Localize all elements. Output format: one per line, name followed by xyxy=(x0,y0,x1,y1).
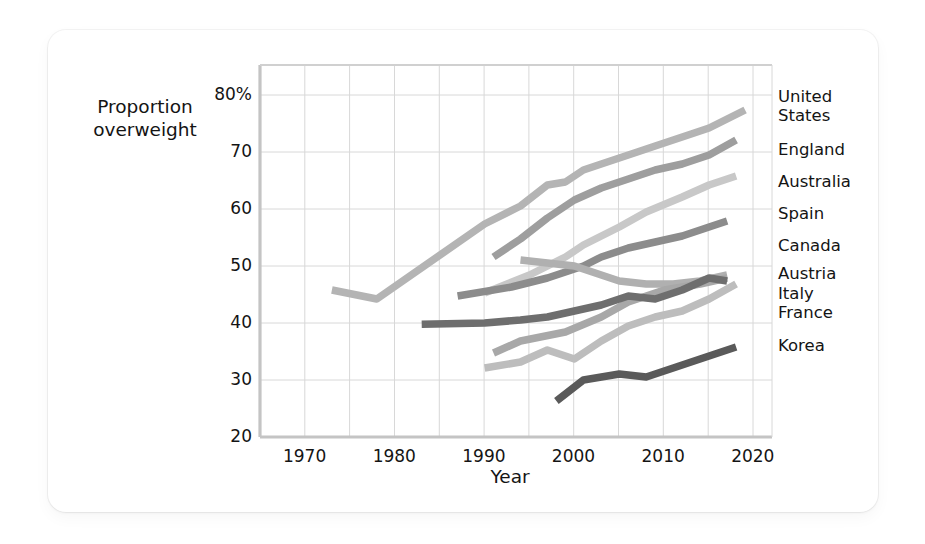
legend-item-italy[interactable]: Italy xyxy=(778,285,814,304)
legend-item-australia[interactable]: Australia xyxy=(778,173,851,192)
legend-label-united-states-line1: United xyxy=(778,88,832,107)
legend-item-spain[interactable]: Spain xyxy=(778,205,824,224)
legend-label-korea: Korea xyxy=(778,337,825,356)
legend-item-united-states[interactable]: United States xyxy=(778,88,832,126)
legend-item-france[interactable]: France xyxy=(778,304,833,323)
legend-label-canada: Canada xyxy=(778,237,841,256)
series-legend: United States England Australia Spain Ca… xyxy=(0,0,925,544)
legend-label-australia: Australia xyxy=(778,173,851,192)
legend-item-canada[interactable]: Canada xyxy=(778,237,841,256)
legend-item-england[interactable]: England xyxy=(778,141,845,160)
legend-label-united-states-line2: States xyxy=(778,107,832,126)
legend-item-korea[interactable]: Korea xyxy=(778,337,825,356)
legend-label-england: England xyxy=(778,141,845,160)
legend-label-france: France xyxy=(778,304,833,323)
legend-label-spain: Spain xyxy=(778,205,824,224)
legend-item-austria[interactable]: Austria xyxy=(778,265,836,284)
figure-page: Proportion overweight Year 80% 70 60 50 … xyxy=(0,0,925,544)
legend-label-italy: Italy xyxy=(778,285,814,304)
legend-label-austria: Austria xyxy=(778,265,836,284)
